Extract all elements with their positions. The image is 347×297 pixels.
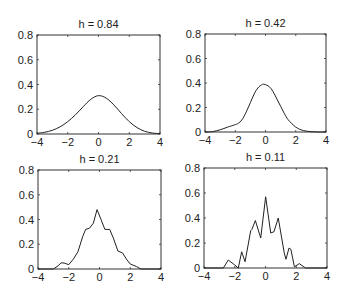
- y-tick-label: 0.8: [19, 164, 34, 176]
- y-tick-label: 0.4: [18, 79, 33, 91]
- axes-frame: [37, 35, 160, 134]
- y-tick-label: 0.2: [185, 237, 200, 249]
- y-tick-label: 0.6: [186, 53, 201, 65]
- x-tick-label: 0: [262, 270, 268, 282]
- kde-figure: h = 0.84−4−202400.20.40.60.8 h = 0.42−4−…: [0, 0, 347, 297]
- x-tick-label: 0: [96, 271, 102, 283]
- subplot-h-021: h = 0.21−4−202400.20.40.60.8: [19, 153, 164, 283]
- x-tick-label: 2: [293, 134, 299, 146]
- y-tick-label: 0.8: [186, 28, 201, 40]
- x-tick-label: 4: [157, 136, 163, 148]
- y-tick-label: 0.2: [19, 238, 34, 250]
- axes-frame: [205, 34, 326, 132]
- y-tick-label: 0.6: [19, 189, 34, 201]
- density-curve: [204, 197, 327, 268]
- y-tick-label: 0.4: [19, 214, 34, 226]
- density-curve: [37, 96, 160, 134]
- y-tick-label: 0: [28, 263, 34, 275]
- subplot-title: h = 0.42: [245, 17, 285, 29]
- y-tick-label: 0.4: [185, 212, 200, 224]
- subplot-title: h = 0.21: [79, 153, 119, 165]
- x-tick-label: −2: [229, 134, 242, 146]
- y-tick-label: 0.6: [18, 54, 33, 66]
- axes-frame: [204, 168, 327, 268]
- x-tick-label: −2: [62, 271, 75, 283]
- axes-frame: [38, 170, 161, 269]
- y-tick-label: 0.2: [186, 102, 201, 114]
- y-tick-label: 0: [27, 128, 33, 140]
- x-tick-label: 2: [126, 136, 132, 148]
- y-tick-label: 0.2: [18, 103, 33, 115]
- x-tick-label: 2: [293, 270, 299, 282]
- x-tick-label: 2: [127, 271, 133, 283]
- density-curve: [38, 210, 161, 269]
- subplot-h-042: h = 0.42−4−202400.20.40.60.8: [186, 17, 329, 146]
- y-tick-label: 0.4: [186, 77, 201, 89]
- subplot-title: h = 0.84: [78, 18, 118, 30]
- y-tick-label: 0: [195, 126, 201, 138]
- y-tick-label: 0.8: [18, 29, 33, 41]
- x-tick-label: −2: [228, 270, 241, 282]
- subplot-h-084: h = 0.84−4−202400.20.40.60.8: [18, 18, 163, 148]
- x-tick-label: 0: [262, 134, 268, 146]
- x-tick-label: −2: [61, 136, 74, 148]
- subplot-h-011: h = 0.11−4−202400.20.40.60.8: [185, 151, 330, 282]
- x-tick-label: 4: [158, 271, 164, 283]
- density-curve: [205, 84, 326, 132]
- x-tick-label: 0: [95, 136, 101, 148]
- x-tick-label: 4: [323, 134, 329, 146]
- y-tick-label: 0.6: [185, 187, 200, 199]
- subplot-title: h = 0.11: [246, 151, 285, 163]
- y-tick-label: 0: [194, 262, 200, 274]
- x-tick-label: 4: [324, 270, 330, 282]
- y-tick-label: 0.8: [185, 162, 200, 174]
